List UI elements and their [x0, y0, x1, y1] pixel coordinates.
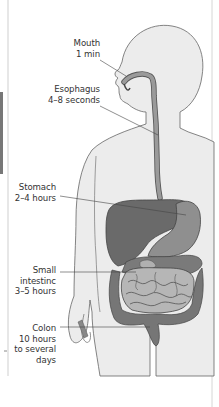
transit-time: 2–4 hours: [10, 193, 56, 204]
label-colon: Colon 10 hours to several days: [10, 323, 56, 365]
transit-time: 4–8 seconds: [30, 95, 100, 106]
label-esophagus: Esophagus 4–8 seconds: [30, 84, 100, 105]
left-edge-bar: [0, 92, 3, 174]
transit-time-2: to several: [10, 344, 56, 355]
transit-time: 3–5 hours: [10, 286, 56, 297]
organ-name: Stomach: [10, 182, 56, 193]
label-small-intestine: Small intestinc 3–5 hours: [10, 265, 56, 297]
small-intestine: [121, 268, 194, 313]
organ-name: Mouth: [60, 38, 100, 49]
organ-name: Esophagus: [30, 84, 100, 95]
transit-time: 10 hours: [10, 334, 56, 345]
organ-name: Colon: [10, 323, 56, 334]
organ-name: Small: [10, 265, 56, 276]
transit-time-3: days: [10, 355, 56, 366]
label-mouth: Mouth 1 min: [60, 38, 100, 59]
label-stomach: Stomach 2–4 hours: [10, 182, 56, 203]
organ-name-2: intestinc: [10, 276, 56, 287]
transit-time: 1 min: [60, 49, 100, 60]
digestive-diagram: Mouth 1 min Esophagus 4–8 seconds Stomac…: [0, 0, 219, 407]
